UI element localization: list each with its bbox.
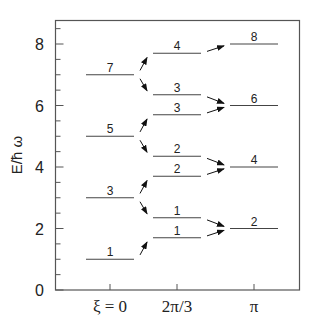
arrow-icon	[207, 158, 224, 164]
degeneracy-label: 4	[251, 153, 258, 167]
degeneracy-label: 2	[174, 162, 181, 176]
arrow-icon	[140, 119, 147, 132]
degeneracy-label: 2	[174, 142, 181, 156]
y-axis-label: E/ħ ω	[8, 136, 25, 175]
y-tick-label: 6	[35, 98, 44, 115]
degeneracy-label: 1	[107, 245, 114, 259]
arrow-icon	[140, 181, 147, 194]
y-tick-label: 2	[35, 221, 44, 238]
y-tick-label: 8	[35, 36, 44, 53]
degeneracy-label: 5	[107, 122, 114, 136]
arrow-icon	[207, 220, 224, 226]
y-tick-label: 4	[35, 159, 44, 176]
arrow-icon	[207, 46, 224, 52]
x-category-label: π	[250, 297, 259, 316]
arrow-icon	[140, 202, 147, 214]
y-tick-label: 0	[35, 282, 44, 299]
degeneracy-label: 3	[174, 101, 181, 115]
arrow-icon	[207, 97, 224, 103]
arrow-icon	[140, 58, 147, 71]
degeneracy-label: 2	[251, 215, 258, 229]
energy-levels: 135711223342468	[86, 30, 278, 259]
arrow-icon	[207, 169, 224, 175]
x-category-label: ξ = 0	[93, 297, 127, 316]
degeneracy-label: 4	[174, 39, 181, 53]
arrow-icon	[140, 140, 147, 152]
arrow-icon	[140, 79, 147, 91]
x-axis: ξ = 02π/3π	[93, 284, 259, 316]
degeneracy-label: 7	[107, 61, 114, 75]
degeneracy-label: 1	[174, 224, 181, 238]
arrow-icon	[207, 107, 224, 113]
degeneracy-label: 3	[107, 184, 114, 198]
transition-arrows	[140, 46, 224, 255]
x-category-label: 2π/3	[162, 297, 192, 316]
degeneracy-label: 6	[251, 92, 258, 106]
degeneracy-label: 8	[251, 30, 258, 44]
energy-level-chart: 02468 ξ = 02π/3π 135711223342468 E/ħ ω	[0, 0, 315, 330]
arrow-icon	[207, 230, 224, 236]
degeneracy-label: 3	[174, 81, 181, 95]
degeneracy-label: 1	[174, 204, 181, 218]
y-axis: 02468	[35, 29, 63, 299]
arrow-icon	[140, 242, 147, 255]
